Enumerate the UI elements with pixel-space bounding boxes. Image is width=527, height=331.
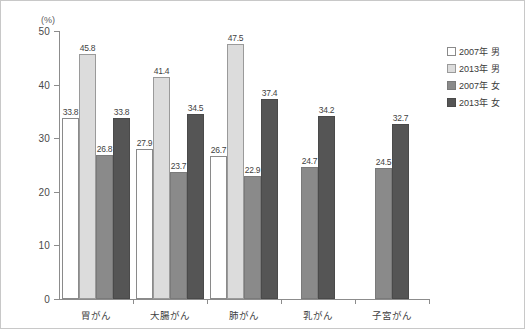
bar-group-bars: 26.747.522.937.4 <box>210 31 278 299</box>
bar-group: 33.845.826.833.8 <box>62 31 130 299</box>
legend-item[interactable]: 2007年 女 <box>447 79 500 92</box>
y-axis-line <box>59 31 60 299</box>
bar-value-label: 24.7 <box>302 156 318 166</box>
x-axis-category-label: 乳がん <box>303 308 333 322</box>
x-axis-category-label: 肺がん <box>229 308 259 322</box>
y-axis-tick-label: 50 <box>38 26 50 37</box>
bar-group-bars: 33.845.826.833.8 <box>62 31 130 299</box>
bar-value-label: 41.4 <box>154 66 170 76</box>
x-axis-tick <box>355 299 356 304</box>
legend-item-label: 2007年 女 <box>459 79 500 92</box>
chart-legend: 2007年 男2013年 男2007年 女2013年 女 <box>447 45 500 113</box>
bar[interactable]: 33.8 <box>62 118 79 299</box>
x-axis-tick <box>207 299 208 304</box>
legend-item[interactable]: 2007年 男 <box>447 45 500 58</box>
y-axis-tick-label: 10 <box>38 240 50 251</box>
bar-group: 27.941.423.734.5 <box>136 31 204 299</box>
bar-value-label: 34.5 <box>188 103 204 113</box>
bar-group-bars: 27.941.423.734.5 <box>136 31 204 299</box>
bar[interactable]: 26.8 <box>96 155 113 299</box>
y-axis-tick <box>54 245 59 246</box>
legend-swatch-icon <box>447 98 456 107</box>
bar[interactable]: 37.4 <box>261 99 278 299</box>
bar[interactable]: 47.5 <box>227 44 244 299</box>
bar-value-label: 32.7 <box>393 113 409 123</box>
y-axis-tick <box>54 85 59 86</box>
legend-item[interactable]: 2013年 男 <box>447 62 500 75</box>
bar-value-label: 34.2 <box>319 105 335 115</box>
y-axis-tick <box>54 299 59 300</box>
legend-swatch-icon <box>447 81 456 90</box>
legend-item-label: 2013年 男 <box>459 62 500 75</box>
x-axis-category-label: 胃がん <box>81 308 111 322</box>
bar[interactable]: 45.8 <box>79 54 96 299</box>
bar[interactable]: 32.7 <box>392 124 409 299</box>
y-axis-tick <box>54 31 59 32</box>
x-axis-category-label: 子宮がん <box>372 308 412 322</box>
x-axis-category-label: 大腸がん <box>150 308 190 322</box>
y-axis-tick-label: 20 <box>38 186 50 197</box>
bar[interactable]: 34.2 <box>318 116 335 299</box>
bar[interactable]: 24.5 <box>375 168 392 299</box>
y-axis-tick-label: 40 <box>38 79 50 90</box>
bar[interactable]: 34.5 <box>187 114 204 299</box>
y-axis-tick-label: 30 <box>38 133 50 144</box>
bar-value-label: 33.8 <box>114 107 130 117</box>
bar[interactable]: 23.7 <box>170 172 187 299</box>
y-axis-unit-label: (%) <box>41 15 55 25</box>
legend-item-label: 2013年 女 <box>459 96 500 109</box>
bar-group-bars: 24.734.2 <box>301 31 335 299</box>
x-axis-line <box>59 299 430 300</box>
bar-group-bars: 24.532.7 <box>375 31 409 299</box>
bar-group: 26.747.522.937.4 <box>210 31 278 299</box>
x-axis-tick <box>429 299 430 304</box>
bar-value-label: 33.8 <box>63 107 79 117</box>
bar[interactable]: 27.9 <box>136 149 153 299</box>
chart-frame: (%) 01020304050 33.845.826.833.827.941.4… <box>0 0 525 329</box>
bar[interactable]: 26.7 <box>210 156 227 299</box>
bar-value-label: 45.8 <box>80 43 96 53</box>
bar-group: 24.734.2 <box>301 31 335 299</box>
bar-value-label: 23.7 <box>171 161 187 171</box>
legend-item-label: 2007年 男 <box>459 45 500 58</box>
x-axis-tick <box>133 299 134 304</box>
bar-value-label: 37.4 <box>262 88 278 98</box>
y-axis-tick-label: 0 <box>44 294 50 305</box>
x-axis-tick <box>281 299 282 304</box>
bar[interactable]: 22.9 <box>244 176 261 299</box>
bar-group: 24.532.7 <box>375 31 409 299</box>
bar-value-label: 26.7 <box>211 145 227 155</box>
bar[interactable]: 33.8 <box>113 118 130 299</box>
legend-swatch-icon <box>447 47 456 56</box>
bar-value-label: 47.5 <box>228 33 244 43</box>
bar-value-label: 26.8 <box>97 144 113 154</box>
bar-value-label: 22.9 <box>245 165 261 175</box>
legend-swatch-icon <box>447 64 456 73</box>
plot-area: 01020304050 33.845.826.833.827.941.423.7… <box>59 31 429 299</box>
y-axis-tick <box>54 192 59 193</box>
bar[interactable]: 24.7 <box>301 167 318 299</box>
bar[interactable]: 41.4 <box>153 77 170 299</box>
bar-value-label: 24.5 <box>376 157 392 167</box>
y-axis-tick <box>54 138 59 139</box>
legend-item[interactable]: 2013年 女 <box>447 96 500 109</box>
bar-value-label: 27.9 <box>137 138 153 148</box>
